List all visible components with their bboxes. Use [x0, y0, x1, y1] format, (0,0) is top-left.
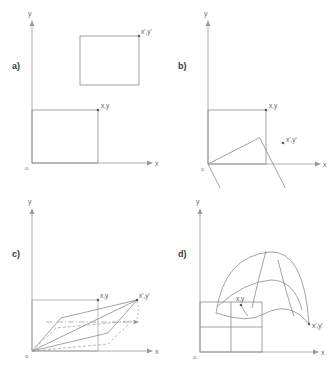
x-axis-label-d: x: [321, 349, 325, 356]
x-axis-arrow: [147, 161, 153, 166]
origin-label-d: o: [193, 354, 197, 360]
target-point-c: [136, 299, 139, 302]
origin-label-c: o: [25, 353, 29, 359]
transformation-figure: a) y x o x,y x',y' b) y: [0, 0, 332, 376]
target-point-label-d: x',y': [312, 322, 323, 330]
source-square-b: [208, 110, 266, 164]
x-axis-label-a: x: [155, 160, 159, 167]
panel-b-rotation: b) y x o x,y x',y': [166, 0, 332, 188]
target-point-label-a: x',y': [141, 28, 152, 36]
y-axis-label-c: y: [28, 198, 32, 206]
y-axis-label-a: y: [28, 10, 32, 18]
panel-letter-c: c): [12, 249, 20, 259]
panel-letter-d: d): [178, 249, 187, 259]
source-point-a: [97, 109, 100, 112]
source-point-label-d: x,y: [236, 295, 245, 303]
y-axis-label-d: y: [196, 198, 200, 206]
source-point-label-a: x,y: [101, 102, 110, 110]
x-axis-label-b: x: [323, 161, 327, 168]
x-axis-arrow: [313, 350, 319, 355]
panel-letter-b: b): [178, 61, 187, 71]
origin-label-b: o: [201, 166, 205, 172]
source-point-label-b: x,y: [269, 102, 278, 110]
source-point-d: [240, 304, 243, 307]
target-square-a: [80, 36, 139, 85]
x-axis-arrow: [147, 349, 153, 354]
target-point-label-b: x',y': [286, 136, 297, 144]
origin-label-a: o: [25, 165, 29, 171]
source-square-a: [32, 110, 98, 163]
target-point-label-c: x',y': [139, 292, 150, 300]
panel-d-warp: d) y x o x,y x',y': [166, 188, 332, 376]
angle-arc-c: [136, 301, 138, 321]
dashed-parallelogram-c: [32, 321, 132, 351]
source-point-label-c: x,y: [100, 292, 109, 300]
warp-outer-bottom: [216, 309, 309, 324]
target-point-d: [308, 323, 311, 326]
source-point-b: [265, 109, 268, 112]
target-point-a: [138, 35, 141, 38]
warp-grid-v1: [252, 251, 266, 308]
y-axis-arrow: [206, 20, 211, 26]
x-axis-arrow: [315, 162, 321, 167]
guide-arrow-c: [134, 320, 140, 324]
y-axis-arrow: [30, 20, 35, 26]
target-point-b: [282, 142, 285, 145]
y-axis-arrow: [198, 208, 203, 214]
x-axis-label-c: x: [155, 348, 159, 355]
warp-grid-v3: [278, 260, 294, 316]
panel-letter-a: a): [12, 61, 20, 71]
warp-grid-v2: [241, 305, 248, 316]
target-square-b: [208, 138, 286, 188]
panel-a-translation: a) y x o x,y x',y': [0, 0, 166, 188]
source-point-c: [97, 299, 100, 302]
y-axis-arrow: [30, 208, 35, 214]
y-axis-label-b: y: [204, 10, 208, 18]
panel-c-affine: c) y x o x,y x',y': [0, 188, 166, 376]
